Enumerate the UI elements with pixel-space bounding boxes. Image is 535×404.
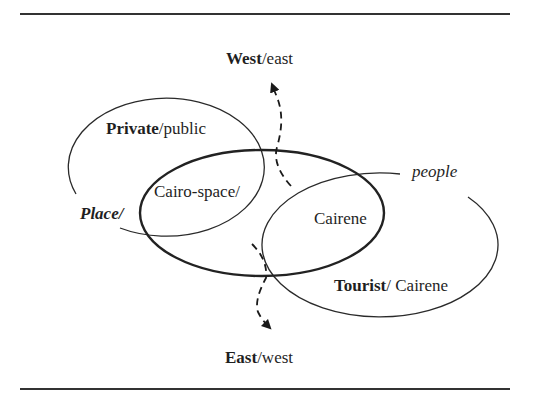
- label-private-strong: Private: [106, 119, 159, 138]
- label-west-strong: West: [226, 49, 262, 68]
- label-place: Place/: [80, 205, 123, 222]
- label-people: people: [412, 163, 457, 180]
- label-east-west: East/west: [225, 349, 293, 366]
- label-east-rest: /west: [257, 348, 293, 367]
- label-tourist-cairene: Tourist/ Cairene: [334, 277, 448, 294]
- label-west-east: West/east: [226, 50, 293, 67]
- label-private-public: Private/public: [106, 120, 206, 137]
- label-cairene-text: Cairene: [314, 209, 367, 228]
- label-cairo-space: Cairo-space/: [154, 183, 240, 200]
- label-place-text: Place/: [80, 204, 123, 223]
- label-people-text: people: [412, 162, 457, 181]
- label-tourist-strong: Tourist: [334, 276, 386, 295]
- dashed-arrow-up: [273, 87, 291, 186]
- label-east-strong: East: [225, 348, 257, 367]
- label-cairene-center: Cairene: [314, 210, 367, 227]
- label-private-rest: /public: [159, 119, 206, 138]
- label-west-rest: /east: [262, 49, 293, 68]
- label-cairo-space-text: Cairo-space/: [154, 182, 240, 201]
- dashed-arrow-down: [252, 244, 268, 326]
- label-tourist-rest: / Cairene: [386, 276, 448, 295]
